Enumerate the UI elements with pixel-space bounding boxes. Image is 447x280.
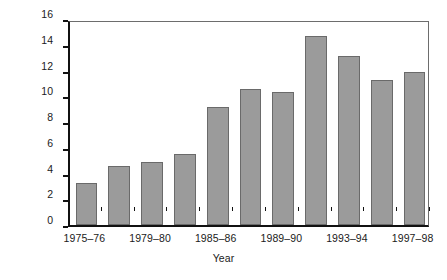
- bar-chart-figure: Millions of 1998 dollars 0246810121416 1…: [0, 0, 447, 280]
- x-axis-tick-mark: [232, 207, 233, 211]
- y-axis-tick-mark: [63, 97, 68, 99]
- y-axis-tick: 0: [44, 227, 62, 228]
- y-axis-tick-label: 0: [47, 220, 53, 221]
- y-axis-tick: 14: [44, 47, 62, 48]
- bar: [76, 183, 98, 225]
- y-axis-tick-label: 8: [47, 117, 53, 118]
- x-axis-tick-label: 1993–94: [326, 232, 368, 244]
- y-axis-tick-label: 6: [47, 143, 53, 144]
- x-axis-tick-mark: [331, 207, 332, 211]
- bar: [338, 56, 360, 225]
- bar: [174, 154, 196, 225]
- x-axis-tick-mark: [396, 207, 397, 211]
- y-axis-tick: 8: [44, 124, 62, 125]
- bar: [272, 92, 294, 225]
- y-axis-tick-mark: [63, 149, 68, 151]
- x-axis-tick-label: 1989–90: [261, 232, 303, 244]
- x-axis-tick-label: 1979–80: [129, 232, 171, 244]
- x-axis-tick-mark: [199, 207, 200, 211]
- y-axis-tick-mark: [63, 123, 68, 125]
- x-axis-tick-label: 1997–98: [392, 232, 434, 244]
- y-axis-tick: 10: [44, 98, 62, 99]
- y-axis-tick-mark: [63, 20, 68, 22]
- y-axis-tick: 2: [44, 201, 62, 202]
- y-axis-tick-mark: [63, 72, 68, 74]
- y-axis-tick-label: 10: [41, 91, 53, 92]
- y-axis-tick-mark: [63, 226, 68, 228]
- x-axis-tick-mark: [166, 207, 167, 211]
- plot-area: [68, 21, 429, 227]
- y-axis-tick: 6: [44, 150, 62, 151]
- bar: [371, 80, 393, 225]
- y-axis-tick-mark: [63, 46, 68, 48]
- x-axis-tick-mark: [298, 207, 299, 211]
- y-axis-tick-mark: [63, 175, 68, 177]
- y-axis-tick-label: 4: [47, 169, 53, 170]
- y-axis-tick-label: 2: [47, 194, 53, 195]
- bar: [108, 166, 130, 225]
- y-axis-tick-mark: [63, 200, 68, 202]
- x-axis-label: Year: [0, 252, 447, 264]
- x-axis-tick-mark: [134, 207, 135, 211]
- bar: [240, 89, 262, 225]
- bar: [141, 162, 163, 225]
- x-axis-tick-mark: [101, 207, 102, 211]
- y-axis-tick: 12: [44, 73, 62, 74]
- x-axis-tick-label: 1975–76: [64, 232, 106, 244]
- y-axis-tick: 16: [44, 21, 62, 22]
- y-axis-tick: 4: [44, 176, 62, 177]
- x-axis-tick-label: 1985–86: [195, 232, 237, 244]
- x-axis-tick-mark: [363, 207, 364, 211]
- x-axis-tick-mark: [265, 207, 266, 211]
- bar: [305, 36, 327, 225]
- bar: [404, 72, 426, 225]
- bar: [207, 107, 229, 225]
- x-axis-tick-mark: [429, 207, 430, 211]
- y-axis-tick-label: 14: [41, 40, 53, 41]
- y-axis-tick-label: 12: [41, 66, 53, 67]
- y-axis-tick-label: 16: [41, 14, 53, 15]
